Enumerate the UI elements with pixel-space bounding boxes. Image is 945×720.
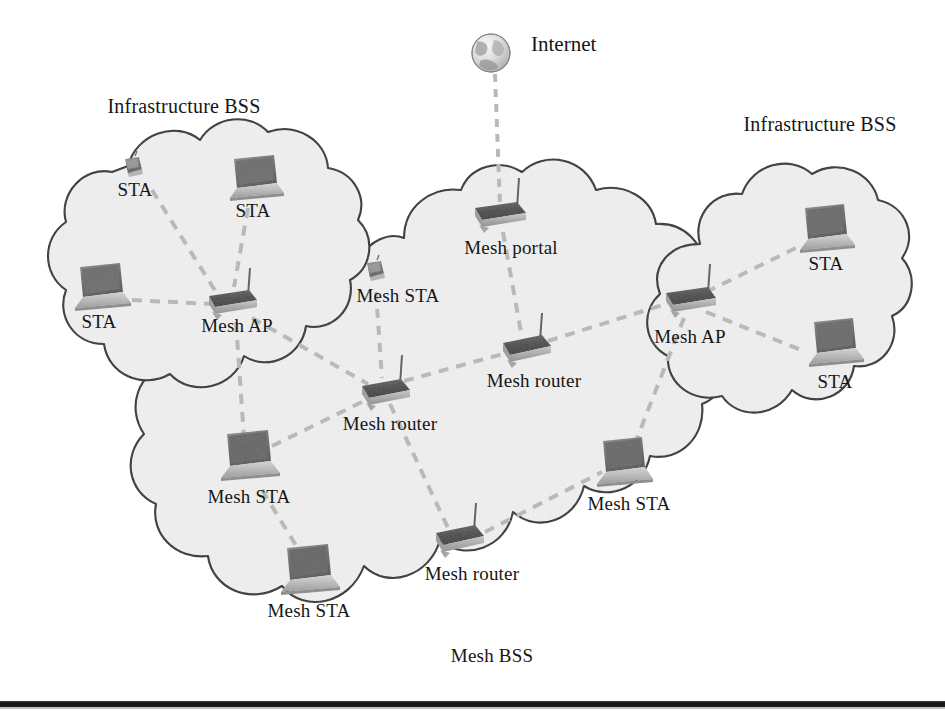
node-label-mesh-sta-west: Mesh STA: [208, 487, 291, 506]
node-label-mesh-sta-southwest: Mesh STA: [268, 601, 351, 620]
node-label-mesh-sta-east: Mesh STA: [588, 494, 671, 513]
node-label-mesh-router-south: Mesh router: [425, 564, 520, 583]
node-label-sta-right-top: STA: [809, 254, 844, 273]
node-label-mesh-sta-handheld: Mesh STA: [357, 286, 440, 305]
cloud-label-mesh-bss: Mesh BSS: [451, 646, 533, 666]
node-label-mesh-ap-left: Mesh AP: [201, 316, 273, 335]
node-label-mesh-ap-right: Mesh AP: [654, 327, 726, 346]
node-label-sta-right-bottom: STA: [818, 372, 853, 391]
node-label-mesh-portal: Mesh portal: [464, 238, 558, 257]
node-label-mesh-router-center: Mesh router: [343, 414, 438, 433]
cloud-bss-right: [647, 164, 912, 413]
node-label-sta-left-top: STA: [236, 201, 271, 220]
globe-icon: [472, 34, 510, 72]
diagram-stage: Internet Infrastructure BSS Infrastructu…: [0, 0, 945, 720]
footer-rule: [0, 701, 945, 707]
node-label-mesh-router-northeast: Mesh router: [487, 371, 582, 390]
cloud-label-bss-left: Infrastructure BSS: [107, 96, 260, 116]
node-label-sta-left-handheld: STA: [118, 180, 153, 199]
internet-label: Internet: [531, 34, 596, 55]
node-label-sta-left-west: STA: [82, 312, 117, 331]
cloud-label-bss-right: Infrastructure BSS: [743, 114, 896, 134]
